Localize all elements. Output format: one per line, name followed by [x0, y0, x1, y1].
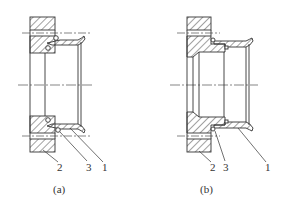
flange-b-top-inner: [187, 36, 225, 57]
label-a-pipe: 1: [102, 162, 108, 173]
seal-ring-a-top-2: [46, 46, 51, 51]
leader-b-1: [238, 128, 266, 162]
seal-b-bottom-step: [225, 120, 228, 123]
label-b-seal-ring: 3: [223, 162, 229, 173]
flange-a-bottom-outer: [30, 139, 55, 152]
diagram-canvas: [0, 0, 284, 207]
label-b-pipe: 1: [265, 162, 271, 173]
label-a-seal-ring: 3: [86, 162, 92, 173]
seal-ring-b-top: [211, 38, 215, 42]
flange-b-bottom-inner: [187, 112, 225, 133]
leader-a-1: [70, 128, 103, 162]
label-b-flange: 2: [210, 162, 216, 173]
seal-b-top-step: [225, 46, 228, 49]
caption-b: (b): [200, 184, 213, 195]
figure-b: [170, 17, 266, 162]
label-a-flange: 2: [57, 162, 63, 173]
flange-b-top-outer: [187, 17, 211, 30]
flange-a-top-outer: [30, 17, 55, 30]
figure-a: [18, 17, 103, 162]
seal-ring-a-bottom-2: [56, 128, 61, 133]
flange-b-bottom-outer: [187, 139, 211, 152]
seal-ring-b-bottom: [211, 127, 215, 131]
leader-b-3: [215, 131, 225, 161]
leader-a-3: [60, 132, 87, 161]
caption-a: (a): [53, 184, 65, 195]
seal-ring-a-top-1: [54, 36, 59, 41]
seal-ring-a-bottom-1: [46, 118, 51, 123]
